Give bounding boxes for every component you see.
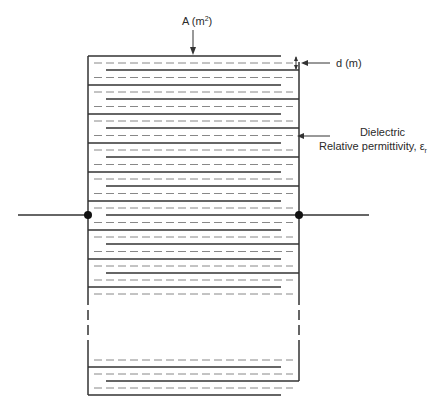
capacitor-diagram: A (m2) d (m) Dielectric Relative permitt… [0,0,441,409]
dielectric-label: Dielectric [324,127,441,138]
permittivity-label: Relative permittivity, εr [319,141,427,154]
area-label: A (m2) [182,15,212,27]
thickness-arrow-up [294,56,298,61]
left-terminal-node [84,211,92,219]
area-arrow-head [190,47,196,55]
capacitor-drawing [0,0,441,409]
right-terminal-node [295,211,303,219]
dielectric-pointer-head [297,133,304,139]
thickness-label: d (m) [336,58,362,69]
thickness-pointer-head [301,60,308,66]
